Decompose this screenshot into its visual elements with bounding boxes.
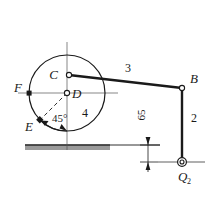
label-point-B: B — [190, 71, 198, 86]
figure-canvas: 65 C D E F B 3 2 4 45° Q 2 — [0, 0, 211, 198]
dimension-65: 65 — [135, 109, 160, 172]
label-point-F: F — [13, 80, 23, 95]
joint-D — [64, 90, 69, 95]
label-point-C: C — [49, 67, 58, 82]
label-link-3: 3 — [125, 61, 131, 75]
joint-B — [179, 85, 184, 90]
label-link-4: 4 — [82, 106, 88, 120]
contact-marker-F — [27, 91, 32, 96]
dimension-65-arrow-bottom — [146, 162, 151, 170]
ground-hatch-band — [25, 146, 110, 151]
label-load-Q2-subscript: 2 — [187, 177, 191, 186]
dimension-65-arrow-top — [146, 137, 151, 145]
label-link-2: 2 — [191, 111, 197, 125]
mechanism-diagram: 65 C D E F B 3 2 4 45° Q 2 — [0, 0, 211, 198]
link-3-bar — [69, 75, 182, 88]
label-point-D: D — [71, 86, 82, 101]
joint-Q-inner — [180, 160, 184, 164]
label-point-E: E — [24, 119, 33, 134]
joint-C — [66, 72, 71, 77]
dimension-65-label: 65 — [135, 109, 147, 121]
label-angle-45: 45° — [52, 112, 67, 124]
ground-support — [25, 145, 110, 150]
